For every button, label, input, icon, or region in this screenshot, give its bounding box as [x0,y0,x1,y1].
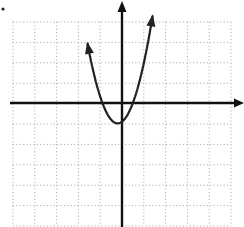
coordinate-graph [0,0,244,227]
bullet-marker [1,7,4,10]
y-axis-arrow-icon [118,1,127,12]
y-axis [118,1,127,227]
x-axis [10,99,244,108]
parabola-curve [85,14,155,123]
x-axis-arrow-icon [234,99,244,108]
curve-right-arrow-icon [146,14,155,27]
curve-left-arrow-icon [85,42,94,55]
